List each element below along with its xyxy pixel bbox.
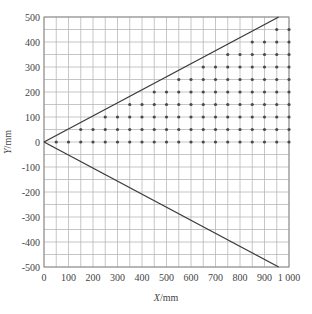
x-tick-label: 400 xyxy=(135,272,150,283)
data-point xyxy=(214,78,217,81)
data-point xyxy=(226,115,229,118)
x-tick-label: 700 xyxy=(208,272,223,283)
data-point xyxy=(189,140,192,143)
y-tick-label: -300 xyxy=(22,212,40,223)
x-tick-label: 300 xyxy=(110,272,125,283)
data-point xyxy=(263,40,266,43)
y-tick-label: 500 xyxy=(25,12,40,23)
data-point xyxy=(202,103,205,106)
data-point xyxy=(238,53,241,56)
data-point xyxy=(104,115,107,118)
data-point xyxy=(165,90,168,93)
data-point xyxy=(275,115,278,118)
x-tick-label: 900 xyxy=(257,272,272,283)
y-tick-label: 300 xyxy=(25,62,40,73)
data-point xyxy=(177,103,180,106)
data-point xyxy=(189,128,192,131)
data-point xyxy=(202,65,205,68)
data-point xyxy=(214,128,217,131)
data-point xyxy=(275,103,278,106)
data-point xyxy=(275,53,278,56)
data-point xyxy=(226,103,229,106)
data-point xyxy=(238,90,241,93)
data-point xyxy=(251,65,254,68)
data-point xyxy=(214,65,217,68)
data-point xyxy=(287,90,290,93)
data-point xyxy=(287,115,290,118)
data-point xyxy=(226,65,229,68)
data-point xyxy=(263,140,266,143)
data-point xyxy=(153,90,156,93)
data-point xyxy=(214,140,217,143)
data-point xyxy=(287,103,290,106)
data-point xyxy=(226,140,229,143)
data-point xyxy=(202,78,205,81)
data-point xyxy=(153,115,156,118)
data-point xyxy=(251,53,254,56)
x-axis-ticks: 01002003004005006007008009001 000 xyxy=(42,272,301,283)
data-point xyxy=(275,40,278,43)
data-point xyxy=(140,140,143,143)
data-point xyxy=(226,90,229,93)
data-point xyxy=(287,53,290,56)
x-tick-label: 600 xyxy=(184,272,199,283)
data-point xyxy=(238,128,241,131)
scatter-chart: 01002003004005006007008009001 000 500400… xyxy=(0,0,312,314)
data-point xyxy=(202,90,205,93)
data-point xyxy=(263,103,266,106)
data-point xyxy=(251,140,254,143)
data-point xyxy=(128,140,131,143)
data-point xyxy=(91,128,94,131)
data-point xyxy=(287,128,290,131)
data-point xyxy=(287,140,290,143)
data-point xyxy=(153,103,156,106)
data-point xyxy=(226,53,229,56)
data-point xyxy=(251,103,254,106)
x-tick-label: 500 xyxy=(159,272,174,283)
data-point xyxy=(177,115,180,118)
data-point xyxy=(202,115,205,118)
y-tick-label: -200 xyxy=(22,187,40,198)
x-tick-label: 1 000 xyxy=(278,272,301,283)
data-point xyxy=(226,128,229,131)
data-point xyxy=(202,140,205,143)
data-point xyxy=(189,103,192,106)
y-tick-label: 100 xyxy=(25,112,40,123)
y-tick-label: 0 xyxy=(35,137,40,148)
data-point xyxy=(177,78,180,81)
data-point xyxy=(165,128,168,131)
data-point xyxy=(238,78,241,81)
data-point xyxy=(263,128,266,131)
data-point xyxy=(275,140,278,143)
data-point xyxy=(140,128,143,131)
data-point xyxy=(104,128,107,131)
data-point xyxy=(140,103,143,106)
data-point xyxy=(251,40,254,43)
data-point xyxy=(91,140,94,143)
y-tick-label: -400 xyxy=(22,237,40,248)
data-point xyxy=(189,78,192,81)
data-point xyxy=(79,140,82,143)
y-tick-label: 200 xyxy=(25,87,40,98)
data-point xyxy=(226,78,229,81)
data-point xyxy=(104,140,107,143)
data-point xyxy=(214,103,217,106)
data-point xyxy=(238,140,241,143)
data-point xyxy=(238,65,241,68)
data-point xyxy=(116,140,119,143)
data-point xyxy=(79,128,82,131)
data-point xyxy=(287,28,290,31)
data-point xyxy=(177,128,180,131)
data-point xyxy=(263,53,266,56)
data-point xyxy=(116,115,119,118)
data-point xyxy=(177,140,180,143)
data-point xyxy=(67,140,70,143)
data-point xyxy=(251,115,254,118)
data-point xyxy=(214,115,217,118)
y-tick-label: -500 xyxy=(22,262,40,273)
data-point xyxy=(140,115,143,118)
data-point xyxy=(128,103,131,106)
data-point xyxy=(251,90,254,93)
data-point xyxy=(251,78,254,81)
data-point xyxy=(238,115,241,118)
